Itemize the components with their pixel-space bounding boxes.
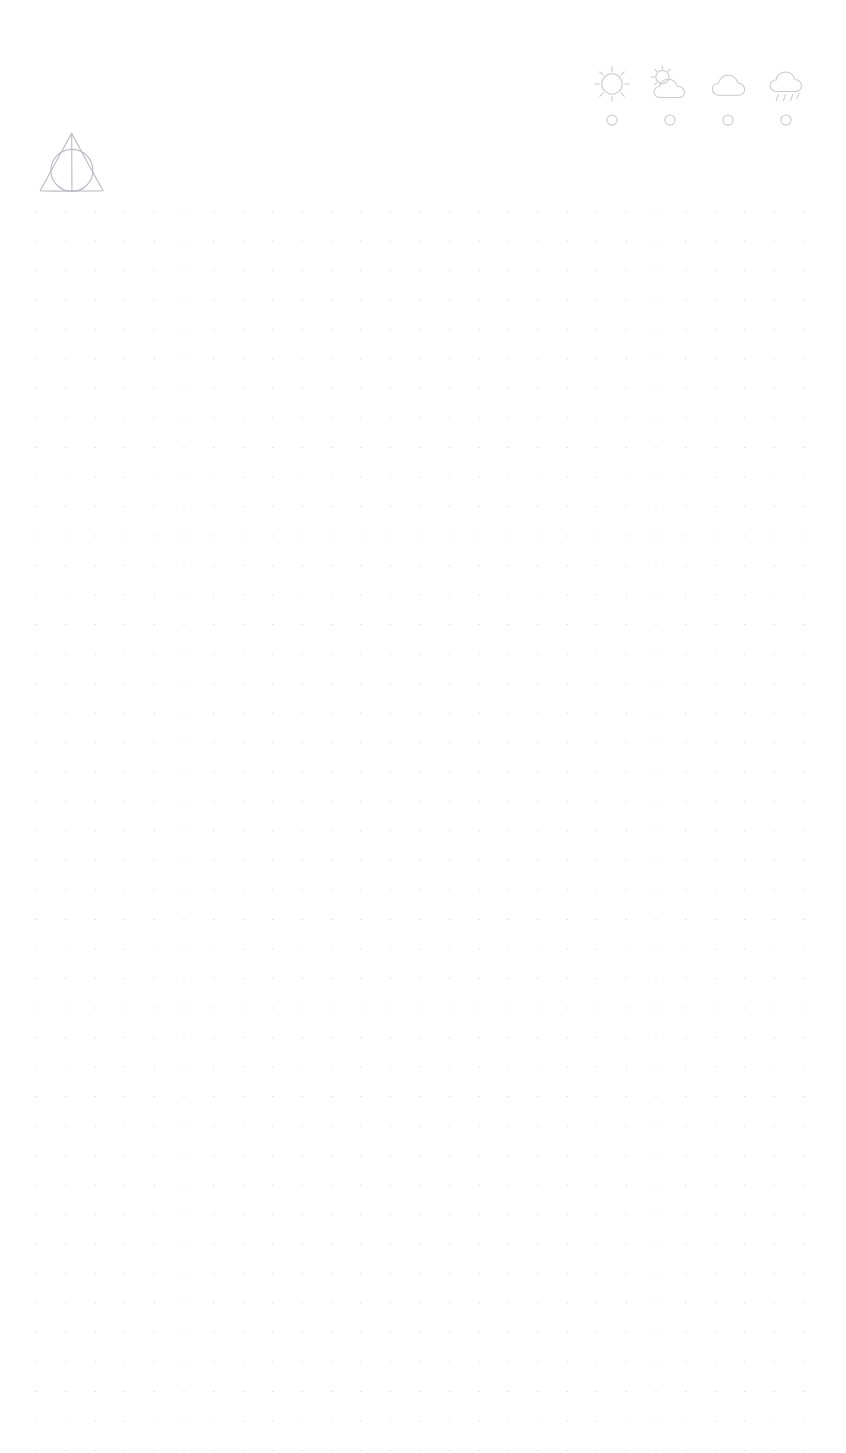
weather-option-partly-cloudy[interactable]: Partly Cloudy xyxy=(641,62,699,136)
cloudy-icon[interactable] xyxy=(705,62,751,106)
dot-grid-background xyxy=(0,0,846,1453)
weather-option-cloudy[interactable]: Cloudy xyxy=(699,62,757,136)
weather-radio-partly-cloudy[interactable] xyxy=(664,114,676,126)
rainy-icon[interactable] xyxy=(763,62,809,106)
weather-radio-cloudy[interactable] xyxy=(722,114,734,126)
weather-radio-sunny[interactable] xyxy=(606,114,618,126)
weather-option-sunny[interactable]: Sunny xyxy=(583,62,641,136)
weather-selector[interactable]: Sunny Partly Cloudy xyxy=(583,62,815,136)
weather-option-rainy[interactable]: Rainy xyxy=(757,62,815,136)
sun-icon[interactable] xyxy=(589,62,635,106)
partly-cloudy-icon[interactable] xyxy=(647,62,693,106)
deathly-hallows-symbol xyxy=(36,128,108,198)
weather-radio-rainy[interactable] xyxy=(780,114,792,126)
journal-page: Sunny Partly Cloudy xyxy=(0,0,846,1453)
